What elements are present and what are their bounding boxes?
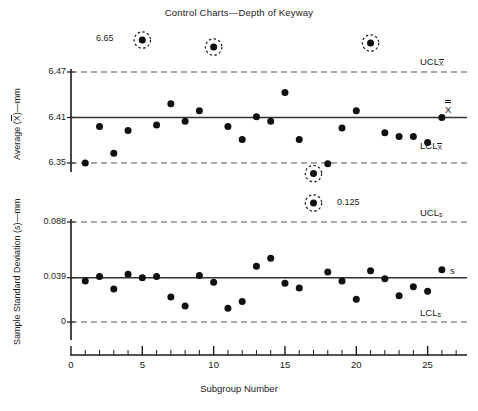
s-y-axis-title-text: Sample Standard Deviation (s)—mm	[12, 198, 22, 345]
s-lcl-label: LCLs	[420, 307, 441, 318]
xbar-data-point	[96, 123, 103, 130]
xbar-data-point	[210, 44, 217, 51]
xbar-data-point	[367, 40, 374, 47]
s-center-label: s	[450, 265, 455, 276]
xbar-data-point	[267, 118, 274, 125]
s-data-point	[239, 298, 246, 305]
xbar-data-point	[296, 136, 303, 143]
s-panel	[67, 195, 467, 340]
xbar-data-point	[167, 100, 174, 107]
xbar-data-point	[253, 113, 260, 120]
s-ytick-label-2: 0	[22, 316, 66, 326]
x-tick-label-25: 25	[408, 359, 448, 370]
xbar-annotation-6-65: 6.65	[96, 33, 114, 43]
s-data-point	[353, 296, 360, 303]
x-tick-label-10: 10	[194, 359, 234, 370]
s-data-point	[182, 303, 189, 310]
xbar-data-point	[239, 136, 246, 143]
xbar-data-point	[310, 170, 317, 177]
xbar-data-point	[381, 129, 388, 136]
xbar-data-point	[410, 133, 417, 140]
xbar-data-point	[82, 160, 89, 167]
s-data-point	[339, 278, 346, 285]
s-ytick-label-1: 0.039	[22, 271, 66, 281]
s-data-point	[267, 255, 274, 262]
x-tick-label-20: 20	[336, 359, 376, 370]
xbar-center-label: X	[445, 104, 451, 115]
s-data-point	[410, 283, 417, 290]
x-tick-label-5: 5	[122, 359, 162, 370]
xbar-data-point	[110, 150, 117, 157]
s-annotation-0-125: 0.125	[337, 197, 360, 207]
s-data-point	[125, 271, 132, 278]
xbar-data-point	[196, 107, 203, 114]
s-data-point	[196, 272, 203, 279]
s-data-point	[424, 288, 431, 295]
s-data-point	[153, 273, 160, 280]
xbar-ucl-label: UCLX	[420, 56, 444, 67]
s-data-point	[310, 200, 317, 207]
s-data-point	[210, 279, 217, 286]
xbar-data-point	[153, 122, 160, 129]
s-y-axis-title: Sample Standard Deviation (s)—mm	[12, 198, 22, 345]
s-data-point	[324, 269, 331, 276]
s-data-point	[82, 278, 89, 285]
xbar-data-point	[339, 125, 346, 132]
xbar-data-point	[224, 123, 231, 130]
x-axis-title: Subgroup Number	[0, 383, 478, 394]
control-chart-figure: Control Charts—Depth of Keyway Average (…	[0, 0, 478, 411]
xbar-y-axis-title: Average (X)—mm	[12, 88, 22, 160]
s-data-point	[139, 274, 146, 281]
xbar-data-point	[139, 37, 146, 44]
xbar-data-point	[182, 118, 189, 125]
s-data-point	[96, 273, 103, 280]
x-tick-label-15: 15	[265, 359, 305, 370]
xbar-data-point	[396, 133, 403, 140]
s-data-point	[438, 266, 445, 273]
xbar-data-point	[281, 89, 288, 96]
s-data-point	[367, 267, 374, 274]
x-axis	[70, 346, 467, 355]
xbar-ytick-label-2: 6.35	[30, 157, 66, 167]
s-data-point	[110, 286, 117, 293]
xbar-data-point	[438, 114, 445, 121]
s-data-point	[281, 280, 288, 287]
xbar-ytick-label-0: 6.47	[30, 66, 66, 76]
s-ytick-label-0: 0.088	[22, 216, 66, 226]
xbar-ytick-label-1: 6.41	[30, 112, 66, 122]
s-data-point	[253, 263, 260, 270]
s-data-point	[224, 305, 231, 312]
s-ucl-label: UCLs	[420, 207, 443, 218]
chart-canvas	[0, 0, 478, 411]
s-data-point	[396, 292, 403, 299]
s-data-point	[381, 275, 388, 282]
xbar-data-point	[353, 107, 360, 114]
x-tick-label-0: 0	[51, 359, 91, 370]
xbar-data-point	[324, 160, 331, 167]
xbar-y-axis-title-text: Average (X)—mm	[12, 88, 22, 160]
s-data-point	[167, 294, 174, 301]
xbar-data-point	[125, 127, 132, 134]
xbar-panel	[67, 32, 467, 182]
s-data-point	[296, 284, 303, 291]
xbar-lcl-label: LCLX	[420, 140, 442, 151]
